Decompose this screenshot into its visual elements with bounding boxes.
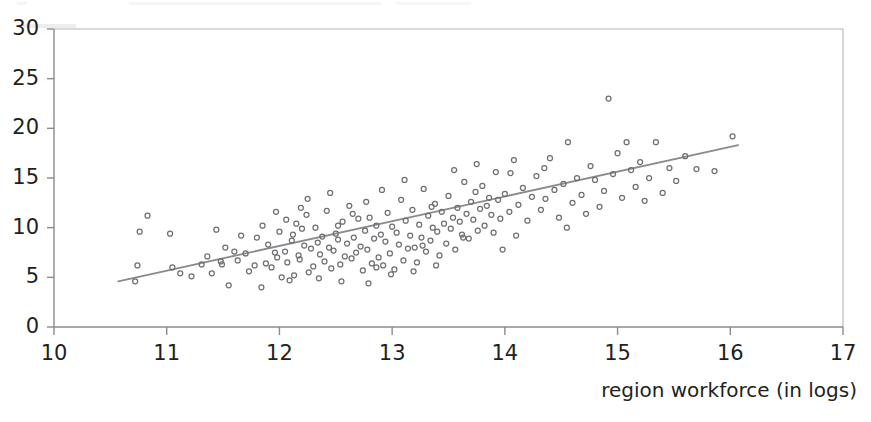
scatter-point — [446, 193, 451, 198]
scatter-point — [615, 151, 620, 156]
x-tick-label-15: 15 — [595, 343, 641, 364]
scatter-point — [542, 166, 547, 171]
scatter-point — [223, 245, 228, 250]
scatter-point — [168, 231, 173, 236]
scatter-point — [311, 264, 316, 269]
scatter-point — [302, 243, 307, 248]
scatter-point — [133, 279, 138, 284]
scatter-point — [290, 232, 295, 237]
scatter-point — [642, 198, 647, 203]
scatter-point — [189, 274, 194, 279]
scatter-point — [266, 242, 271, 247]
scatter-point — [593, 177, 598, 182]
scatter-point — [516, 202, 521, 207]
scatter-point — [358, 244, 363, 249]
scatter-point — [489, 212, 494, 217]
scatter-point — [597, 204, 602, 209]
scatter-point — [339, 279, 344, 284]
scatter-point — [279, 275, 284, 280]
scatter-point — [633, 184, 638, 189]
x-tick-label-10: 10 — [31, 343, 77, 364]
scatter-point — [525, 218, 530, 223]
scatter-point — [520, 185, 525, 190]
scatter-point — [552, 187, 557, 192]
scatter-point — [441, 221, 446, 226]
scatter-point — [324, 208, 329, 213]
scatter-point — [369, 261, 374, 266]
scatter-point — [299, 226, 304, 231]
scatter-point — [350, 211, 355, 216]
scatter-point — [430, 225, 435, 230]
scatter-point — [235, 258, 240, 263]
scatter-point — [417, 222, 422, 227]
scatter-point — [135, 263, 140, 268]
scatter-point — [239, 233, 244, 238]
scatter-point — [396, 242, 401, 247]
scatter-point — [538, 207, 543, 212]
scatter-point — [342, 254, 347, 259]
scatter-point — [471, 217, 476, 222]
y-tick-label-20: 20 — [0, 117, 39, 138]
scatter-point — [283, 249, 288, 254]
scatter-point — [137, 229, 142, 234]
scatter-point — [331, 248, 336, 253]
x-tick-label-14: 14 — [482, 343, 528, 364]
x-tick-label-11: 11 — [144, 343, 190, 364]
scatter-point — [399, 197, 404, 202]
scatter-point — [347, 203, 352, 208]
scatter-point — [308, 246, 313, 251]
scatter-point — [411, 269, 416, 274]
scatter-point — [556, 215, 561, 220]
scatter-point — [356, 216, 361, 221]
scatter-point — [435, 229, 440, 234]
scatter-point — [493, 170, 498, 175]
scatter-point — [500, 247, 505, 252]
scatter-point — [318, 252, 323, 257]
scatter-point — [232, 249, 237, 254]
scatter-point — [474, 162, 479, 167]
scatter-point — [514, 233, 519, 238]
scatter-point — [292, 273, 297, 278]
scatter-point — [379, 187, 384, 192]
y-tick-label-15: 15 — [0, 167, 39, 188]
y-tick-label-10: 10 — [0, 217, 39, 238]
x-tick-label-12: 12 — [256, 343, 302, 364]
scatter-point — [259, 285, 264, 290]
scatter-point — [419, 235, 424, 240]
axes-group — [47, 29, 843, 335]
scatter-point — [401, 258, 406, 263]
scatter-point — [284, 217, 289, 222]
scatter-point — [360, 268, 365, 273]
scatter-point — [336, 237, 341, 242]
scatter-point — [277, 229, 282, 234]
scatter-point — [475, 228, 480, 233]
scatter-point — [145, 213, 150, 218]
scatter-point — [588, 164, 593, 169]
scatter-point — [364, 199, 369, 204]
scatter-point — [381, 263, 386, 268]
scatter-point — [511, 158, 516, 163]
scatter-point — [374, 265, 379, 270]
scatter-point — [482, 223, 487, 228]
x-tick-label-13: 13 — [369, 343, 415, 364]
scatter-point — [340, 219, 345, 224]
scatter-point — [712, 169, 717, 174]
scatter-point — [329, 266, 334, 271]
scatter-point — [408, 233, 413, 238]
scatter-point — [478, 206, 483, 211]
scatter-point — [366, 281, 371, 286]
scatter-point — [453, 247, 458, 252]
scatter-point — [491, 230, 496, 235]
scatter-point — [498, 216, 503, 221]
scatter-point — [624, 140, 629, 145]
y-tick-label-30: 30 — [0, 18, 39, 39]
scatter-point — [385, 210, 390, 215]
scatter-point — [602, 188, 607, 193]
scatter-point — [376, 255, 381, 260]
scatter-point — [529, 194, 534, 199]
scatter-point — [316, 276, 321, 281]
scatter-point — [252, 263, 257, 268]
scatter-point — [383, 239, 388, 244]
scatter-point — [260, 223, 265, 228]
scatter-point — [638, 160, 643, 165]
